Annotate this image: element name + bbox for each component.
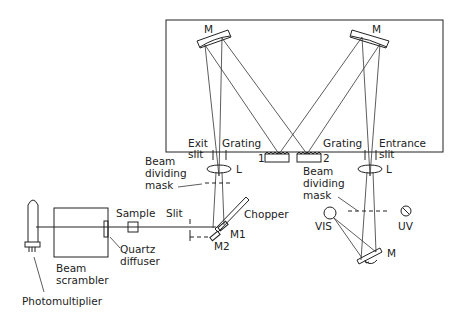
lens-right-label: L <box>386 163 392 175</box>
quartz-diffuser <box>104 221 108 237</box>
mirror-bottom-label: M <box>387 247 396 259</box>
exit-slit-label-2: slit <box>188 148 203 160</box>
entrance-slit-label-2: slit <box>379 148 394 160</box>
chopper-label: Chopper <box>244 208 289 220</box>
beam-scrambler <box>54 208 108 257</box>
grating-1-label: Grating <box>222 137 261 149</box>
mask-right-label-3: mask <box>303 189 332 201</box>
grating-1-number: 1 <box>258 152 265 164</box>
mask-left-label-1: Beam <box>145 155 175 167</box>
grating-2-number: 2 <box>323 152 330 164</box>
monochromator-diagram: M M 1 Grating 2 Grating Exit slit Entran… <box>0 0 451 320</box>
mask-right-label-1: Beam <box>303 165 333 177</box>
quartz-diffuser-label-2: diffuser <box>120 255 160 267</box>
m1-label: M1 <box>230 228 246 240</box>
mirror-left <box>197 30 231 48</box>
vis-label: VIS <box>315 220 332 232</box>
mask-left-label-3: mask <box>145 179 174 191</box>
beam-paths-monochromator <box>205 37 380 176</box>
monochromator-housing <box>166 20 443 152</box>
photomultiplier <box>25 200 40 252</box>
mirror-right-label: M <box>372 23 381 35</box>
lens-left-label: L <box>236 163 242 175</box>
vis-lamp <box>324 207 336 219</box>
m2-label: M2 <box>214 240 230 252</box>
grating-2-label: Grating <box>323 137 362 149</box>
mask-right-label-2: dividing <box>303 177 345 189</box>
quartz-diffuser-label-1: Quartz <box>120 243 156 255</box>
mirror-m1 <box>218 221 228 230</box>
mirror-left-label: M <box>204 23 213 35</box>
beam-scrambler-label-1: Beam <box>56 262 86 274</box>
photomultiplier-label: Photomultiplier <box>22 295 103 307</box>
grating-2 <box>297 152 321 162</box>
sample-label: Sample <box>116 207 155 219</box>
mask-left-label-2: dividing <box>145 167 187 179</box>
grating-1 <box>265 152 289 162</box>
beam-scrambler-label-2: scrambler <box>56 274 109 286</box>
slit-label: Slit <box>166 207 183 219</box>
uv-label: UV <box>398 220 414 232</box>
